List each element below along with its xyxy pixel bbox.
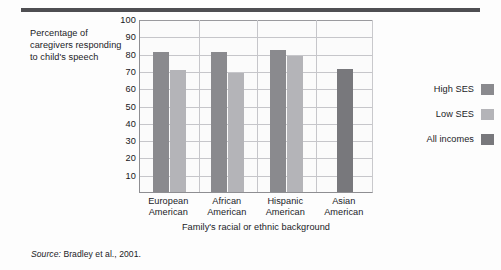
x-label-line-1: African: [198, 196, 257, 207]
x-label-african-american: AfricanAmerican: [198, 196, 257, 219]
source-citation: Bradley et al., 2001.: [63, 249, 141, 259]
y-axis-tick-labels: 102030405060708090100: [112, 20, 136, 193]
y-tick-label-60: 60: [126, 84, 136, 94]
bar-asian-american-all-incomes: [337, 69, 353, 192]
y-tick-label-20: 20: [126, 153, 136, 163]
legend-label: Low SES: [436, 109, 474, 119]
source-note: Source: Bradley et al., 2001.: [31, 249, 141, 259]
figure-container: Percentage of caregivers responding to c…: [0, 0, 501, 270]
x-label-asian-american: AsianAmerican: [315, 196, 374, 219]
y-axis-caption: Percentage of caregivers responding to c…: [30, 27, 122, 63]
y-tick-label-70: 70: [126, 67, 136, 77]
y-tick-label-40: 40: [126, 119, 136, 129]
x-label-line-1: Asian: [315, 196, 374, 207]
legend-swatch: [481, 109, 494, 120]
top-divider-rule: [21, 8, 480, 12]
bar-hispanic-american-high-ses: [270, 50, 286, 192]
bar-african-american-low-ses: [228, 73, 244, 192]
y-tick-label-100: 100: [120, 15, 136, 25]
y-tick-label-30: 30: [126, 136, 136, 146]
legend-item-all-incomes: All incomes: [386, 133, 494, 145]
x-label-line-2: American: [256, 207, 315, 218]
plot-area: [139, 20, 373, 193]
y-tick-label-80: 80: [126, 50, 136, 60]
bar-european-american-low-ses: [170, 70, 186, 192]
x-label-line-2: American: [315, 207, 374, 218]
bar-african-american-high-ses: [211, 52, 227, 192]
source-label: Source:: [31, 249, 61, 259]
legend-label: All incomes: [426, 134, 474, 144]
x-label-european-american: EuropeanAmerican: [139, 196, 198, 219]
legend-item-high-ses: High SES: [386, 83, 494, 95]
legend-label: High SES: [434, 84, 474, 94]
y-tick-label-10: 10: [126, 171, 136, 181]
legend-item-low-ses: Low SES: [386, 108, 494, 120]
y-tick-label-90: 90: [126, 32, 136, 42]
bar-european-american-high-ses: [153, 52, 169, 192]
x-label-hispanic-american: HispanicAmerican: [256, 196, 315, 219]
bar-series-layer: [140, 20, 372, 192]
y-tick-label-50: 50: [126, 102, 136, 112]
x-label-line-1: Hispanic: [256, 196, 315, 207]
x-label-line-2: American: [139, 207, 198, 218]
x-axis-category-labels: EuropeanAmericanAfricanAmericanHispanicA…: [139, 196, 373, 222]
chart-legend: High SESLow SESAll incomes: [386, 83, 494, 158]
x-label-line-1: European: [139, 196, 198, 207]
x-label-line-2: American: [198, 207, 257, 218]
legend-swatch: [481, 134, 494, 145]
plot-frame: [139, 20, 373, 193]
x-axis-title: Family's racial or ethnic background: [139, 222, 373, 232]
bar-hispanic-american-low-ses: [287, 56, 303, 192]
legend-swatch: [481, 84, 494, 95]
